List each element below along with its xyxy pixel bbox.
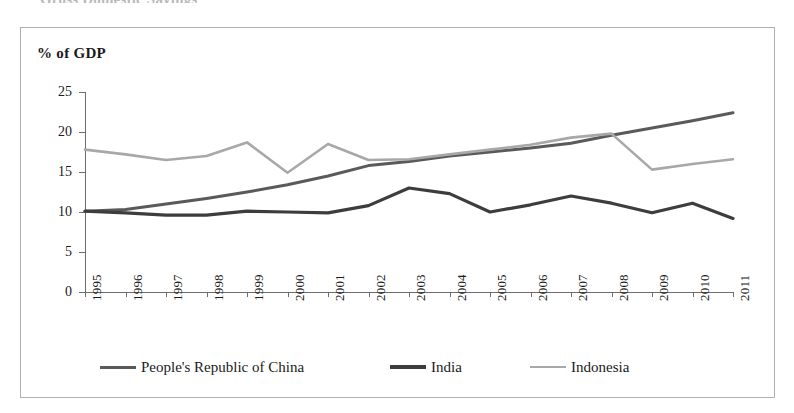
x-axis-tick-label: 2008 xyxy=(617,274,630,301)
y-axis-tick xyxy=(79,252,85,253)
legend-swatch xyxy=(530,366,566,369)
x-axis-tick-label: 1995 xyxy=(90,274,103,301)
y-axis-tick-label: 0 xyxy=(32,285,72,299)
x-axis-tick xyxy=(652,292,653,297)
x-axis-tick xyxy=(166,292,167,297)
x-axis-tick-label: 1999 xyxy=(252,274,265,301)
x-axis-tick-label: 1997 xyxy=(171,274,184,301)
x-axis-tick xyxy=(612,292,613,297)
x-axis-tick xyxy=(409,292,410,297)
x-axis-tick-label: 2010 xyxy=(698,274,711,301)
y-axis-tick-label: 10 xyxy=(32,205,72,219)
x-axis-tick xyxy=(450,292,451,297)
x-axis-tick-label: 2003 xyxy=(414,274,427,301)
y-axis-tick xyxy=(79,172,85,173)
y-axis-tick xyxy=(79,132,85,133)
x-axis-tick-label: 2002 xyxy=(374,274,387,301)
x-axis-tick xyxy=(490,292,491,297)
x-axis-tick-label: 1998 xyxy=(212,274,225,301)
y-axis-tick-label: 25 xyxy=(32,85,72,99)
x-axis-tick xyxy=(247,292,248,297)
x-axis-tick-label: 2001 xyxy=(333,274,346,301)
y-axis-tick xyxy=(79,212,85,213)
x-axis-tick-label: 2007 xyxy=(576,274,589,301)
x-axis-tick xyxy=(733,292,734,297)
legend-label: India xyxy=(431,360,462,375)
legend-swatch xyxy=(390,365,426,368)
x-axis-tick xyxy=(126,292,127,297)
x-axis-tick xyxy=(288,292,289,297)
x-axis-tick xyxy=(571,292,572,297)
x-axis-tick-label: 2005 xyxy=(495,274,508,301)
plot-area xyxy=(85,92,733,292)
legend-item[interactable]: India xyxy=(390,357,462,377)
legend-swatch xyxy=(100,366,136,369)
y-axis-tick-label: 20 xyxy=(32,125,72,139)
x-axis-tick-label: 2004 xyxy=(455,274,468,301)
x-axis-tick-label: 2006 xyxy=(536,274,549,301)
legend-item[interactable]: People's Republic of China xyxy=(100,357,304,377)
x-axis-tick xyxy=(207,292,208,297)
legend-item[interactable]: Indonesia xyxy=(530,357,629,377)
x-axis-tick xyxy=(693,292,694,297)
y-axis-tick-label: 5 xyxy=(32,245,72,259)
x-axis-tick xyxy=(369,292,370,297)
chart-legend: People's Republic of ChinaIndiaIndonesia xyxy=(100,357,720,379)
y-axis-tick-label: 15 xyxy=(32,165,72,179)
x-axis-tick-label: 1996 xyxy=(131,274,144,301)
legend-label: People's Republic of China xyxy=(141,360,304,375)
x-axis-tick-label: 2009 xyxy=(657,274,670,301)
x-axis-tick xyxy=(85,292,86,297)
x-axis-tick-label: 2011 xyxy=(738,275,751,301)
x-axis-tick xyxy=(531,292,532,297)
chart-plot-wrapper: 0510152025 19951996199719981999200020012… xyxy=(0,0,794,413)
y-axis-tick xyxy=(79,92,85,93)
legend-label: Indonesia xyxy=(571,360,629,375)
x-axis-tick xyxy=(328,292,329,297)
x-axis-tick-label: 2000 xyxy=(293,274,306,301)
